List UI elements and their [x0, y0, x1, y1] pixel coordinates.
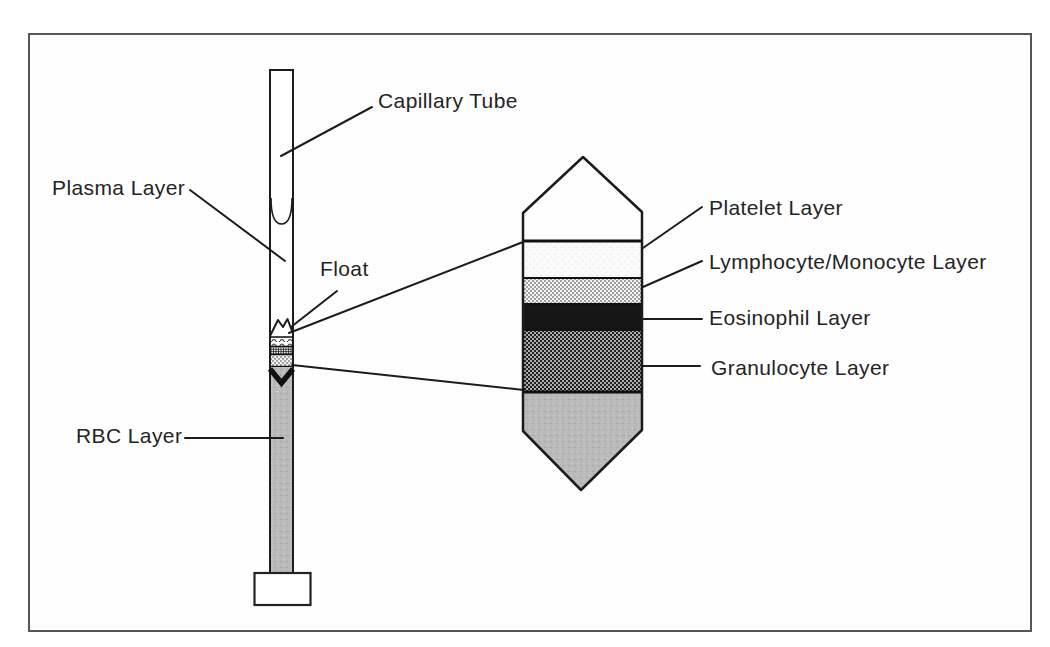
- capillary-tube-leader-line: [281, 107, 372, 156]
- lymphocyte-monocyte-layer-band: [523, 278, 642, 304]
- mini-lymphocyte-band: [271, 348, 292, 355]
- diagram-canvas: Capillary Tube Plasma Layer Float RBC La…: [0, 0, 1050, 647]
- enlarged-rbc-region: [523, 392, 642, 490]
- enlarged-top-space: [523, 157, 642, 241]
- rbc-column: [271, 367, 292, 572]
- mini-granulocyte-band: [271, 356, 292, 367]
- granulocyte-layer-band: [523, 330, 642, 392]
- float-leader-line: [291, 291, 337, 327]
- granulocyte-layer-label: Granulocyte Layer: [711, 356, 889, 380]
- mini-platelet-band: [271, 337, 292, 347]
- tube-base-seal: [255, 573, 311, 605]
- plasma-layer-label: Plasma Layer: [52, 176, 185, 200]
- float-label: Float: [320, 257, 369, 281]
- eosinophil-layer-label: Eosinophil Layer: [709, 306, 871, 330]
- capillary-tube-diagram: [0, 0, 1050, 647]
- lymphocyte-monocyte-leader-line: [643, 261, 702, 287]
- capillary-tube-figure: [255, 70, 311, 605]
- platelet-layer-label: Platelet Layer: [709, 196, 843, 220]
- enlarged-buffy-coat-view: [523, 157, 642, 490]
- capillary-tube-label: Capillary Tube: [378, 89, 518, 113]
- lymphocyte-monocyte-layer-label: Lymphocyte/Monocyte Layer: [709, 250, 987, 274]
- magnify-connector-top: [289, 242, 523, 333]
- rbc-layer-label: RBC Layer: [76, 424, 182, 448]
- magnify-connector-bottom: [292, 365, 524, 390]
- platelet-layer-band: [523, 241, 642, 278]
- eosinophil-layer-band: [523, 304, 642, 330]
- platelet-layer-leader-line: [643, 207, 702, 248]
